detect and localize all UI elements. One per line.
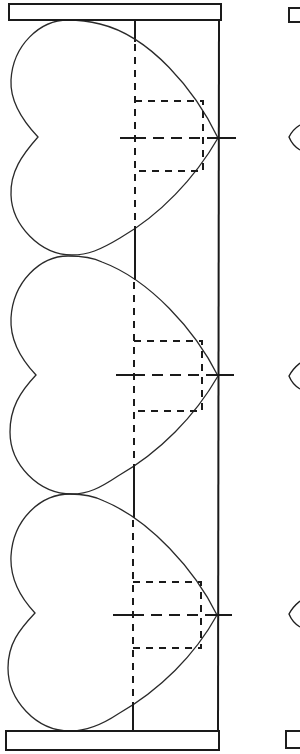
top-bar [9, 4, 221, 20]
partial-bottom-bar [286, 731, 300, 748]
next-pattern-partial [286, 8, 300, 748]
heart-pattern-diagram [0, 0, 300, 754]
heart-2 [10, 256, 234, 494]
partial-notch-3 [289, 601, 300, 627]
heart-outline [10, 256, 218, 494]
guide-rect [135, 101, 203, 171]
heart-outline [11, 20, 218, 255]
heart-3 [8, 494, 232, 731]
heart-1 [11, 20, 236, 255]
partial-notch-1 [289, 125, 300, 150]
partial-top-bar [289, 8, 300, 22]
partial-notch-2 [289, 363, 300, 389]
heart-outline [8, 494, 217, 731]
bottom-bar [6, 731, 219, 750]
